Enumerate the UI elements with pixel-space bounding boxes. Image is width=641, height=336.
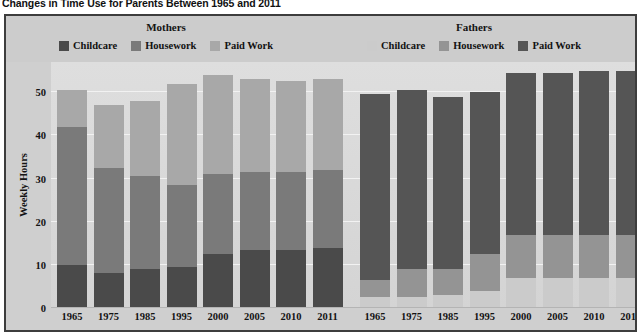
y-tick-label: 50 <box>36 87 47 98</box>
bar-segment-paid-work <box>506 73 536 235</box>
bar-segment-housework <box>313 170 343 248</box>
legend-item-mothers-housework[interactable]: Housework <box>131 40 196 51</box>
bar-mothers-2010[interactable] <box>276 81 306 308</box>
x-tick-label: 2011 <box>311 311 345 322</box>
x-tick-label: 2005 <box>238 311 272 322</box>
legend-band: Mothers Childcare Housework Paid Work Fa… <box>6 16 635 62</box>
bar-segment-housework <box>433 269 463 295</box>
x-tick-label: 1975 <box>395 311 429 322</box>
x-tick-label: 2010 <box>577 311 611 322</box>
legend-label-mothers-housework: Housework <box>145 40 196 51</box>
legend-item-mothers-childcare[interactable]: Childcare <box>59 40 117 51</box>
bar-mothers-1975[interactable] <box>94 105 124 308</box>
y-tick-label: 30 <box>36 173 47 184</box>
bar-segment-childcare <box>276 250 306 308</box>
y-tick-label: 0 <box>41 303 46 314</box>
bar-segment-childcare <box>57 265 87 308</box>
bar-segment-paid-work <box>360 94 390 280</box>
bar-segment-housework <box>167 185 197 267</box>
x-tick-label: 1965 <box>358 311 392 322</box>
bar-segment-housework <box>579 235 609 278</box>
bar-segment-paid-work <box>313 79 343 170</box>
bar-segment-childcare <box>240 250 270 308</box>
bar-segment-paid-work <box>470 92 500 254</box>
bar-segment-housework <box>397 269 427 297</box>
bar-segment-housework <box>57 127 87 265</box>
bar-segment-housework <box>470 254 500 291</box>
bar-segment-childcare <box>167 267 197 308</box>
bars-layer <box>51 62 635 308</box>
legend-item-fathers-housework[interactable]: Housework <box>439 40 504 51</box>
x-tick-label: 1965 <box>55 311 89 322</box>
bar-mothers-1995[interactable] <box>167 84 197 308</box>
bar-fathers-2010[interactable] <box>579 71 609 308</box>
legend-items-fathers: Childcare Housework Paid Work <box>324 37 624 51</box>
bar-segment-housework <box>94 168 124 274</box>
bar-mothers-1985[interactable] <box>130 101 160 308</box>
legend-group-fathers: Fathers Childcare Housework Paid Work <box>324 16 624 62</box>
bar-segment-paid-work <box>240 79 270 172</box>
bar-segment-housework <box>240 172 270 250</box>
bar-segment-paid-work <box>203 75 233 174</box>
bar-segment-paid-work <box>616 71 638 235</box>
bar-segment-housework <box>203 174 233 254</box>
bar-segment-paid-work <box>276 81 306 172</box>
x-tick-label: 1995 <box>468 311 502 322</box>
bar-segment-paid-work <box>130 101 160 177</box>
x-tick-label: 1985 <box>431 311 465 322</box>
legend-swatch-icon <box>59 41 69 51</box>
legend-label-fathers-childcare: Childcare <box>381 40 425 51</box>
legend-item-mothers-paid-work[interactable]: Paid Work <box>210 40 273 51</box>
bar-fathers-2011[interactable] <box>616 71 638 308</box>
bar-segment-paid-work <box>397 90 427 269</box>
bar-segment-childcare <box>94 273 124 308</box>
bar-segment-housework <box>543 235 573 278</box>
bar-segment-childcare <box>543 278 573 308</box>
bar-segment-housework <box>360 280 390 297</box>
x-tick-label: 2010 <box>274 311 308 322</box>
legend-swatch-icon <box>367 41 377 51</box>
bar-segment-housework <box>506 235 536 278</box>
legend-item-fathers-childcare[interactable]: Childcare <box>367 40 425 51</box>
x-tick-label: 2005 <box>541 311 575 322</box>
legend-label-mothers-paid-work: Paid Work <box>224 40 273 51</box>
legend-swatch-icon <box>518 41 528 51</box>
bar-segment-paid-work <box>433 97 463 270</box>
bar-segment-childcare <box>506 278 536 308</box>
bar-segment-childcare <box>313 248 343 308</box>
x-tick-label: 2000 <box>504 311 538 322</box>
legend-swatch-icon <box>210 41 220 51</box>
bar-segment-paid-work <box>167 84 197 185</box>
page-title: Changes in Time Use for Parents Between … <box>2 0 639 12</box>
legend-items-mothers: Childcare Housework Paid Work <box>16 37 316 51</box>
bar-segment-paid-work <box>543 73 573 235</box>
bar-fathers-1965[interactable] <box>360 94 390 308</box>
bar-mothers-2005[interactable] <box>240 79 270 308</box>
legend-group-title-fathers: Fathers <box>324 16 624 37</box>
bar-segment-housework <box>616 235 638 278</box>
legend-label-mothers-childcare: Childcare <box>73 40 117 51</box>
legend-item-fathers-paid-work[interactable]: Paid Work <box>518 40 581 51</box>
legend-label-fathers-paid-work: Paid Work <box>532 40 581 51</box>
bar-fathers-1985[interactable] <box>433 97 463 308</box>
bar-fathers-2005[interactable] <box>543 73 573 308</box>
bar-segment-paid-work <box>57 90 87 127</box>
bar-mothers-2000[interactable] <box>203 75 233 308</box>
y-tick-label: 10 <box>36 259 47 270</box>
bar-mothers-2011[interactable] <box>313 79 343 308</box>
bar-fathers-1975[interactable] <box>397 90 427 308</box>
x-tick-label: 2000 <box>201 311 235 322</box>
bar-mothers-1965[interactable] <box>57 90 87 308</box>
bar-fathers-2000[interactable] <box>506 73 536 308</box>
bar-segment-paid-work <box>94 105 124 168</box>
bar-segment-paid-work <box>579 71 609 235</box>
legend-group-mothers: Mothers Childcare Housework Paid Work <box>16 16 316 62</box>
bar-fathers-1995[interactable] <box>470 92 500 308</box>
bar-segment-childcare <box>579 278 609 308</box>
chart-panel: Mothers Childcare Housework Paid Work Fa… <box>4 14 637 332</box>
legend-swatch-icon <box>131 41 141 51</box>
legend-label-fathers-housework: Housework <box>453 40 504 51</box>
x-tick-label: 1985 <box>128 311 162 322</box>
y-tick-label: 20 <box>36 216 47 227</box>
bar-segment-childcare <box>130 269 160 308</box>
